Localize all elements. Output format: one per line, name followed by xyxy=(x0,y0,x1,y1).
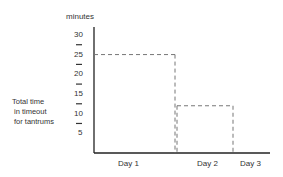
y-tick-label: 15 xyxy=(74,89,83,98)
x-tick-label: Day 3 xyxy=(240,159,261,168)
y-tick-label: 25 xyxy=(74,50,83,59)
x-tick-label: Day 2 xyxy=(197,159,218,168)
y-tick-label: 10 xyxy=(74,109,83,118)
y-tick-label: 20 xyxy=(74,69,83,78)
y-tick-label: 5 xyxy=(78,128,82,137)
y-axis-title-line-3: for tantrums xyxy=(12,117,54,127)
chart xyxy=(0,0,283,177)
y-axis-title-line-1: Total time xyxy=(12,97,54,107)
y-axis-title: Total time in timeout for tantrums xyxy=(12,97,54,127)
y-axis-title-line-2: in timeout xyxy=(12,107,54,117)
x-tick-label: Day 1 xyxy=(118,159,139,168)
y-tick-label: 30 xyxy=(74,30,83,39)
y-axis-unit: minutes xyxy=(66,12,94,21)
